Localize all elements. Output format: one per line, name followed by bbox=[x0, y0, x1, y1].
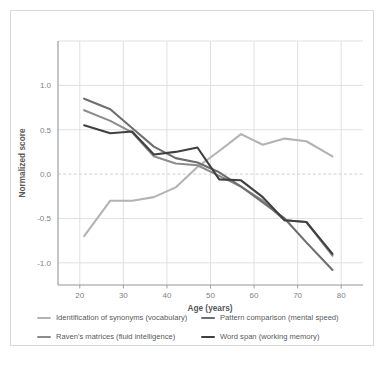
y-tick-label: -1.0 bbox=[37, 259, 51, 268]
gridlines bbox=[58, 41, 363, 285]
series-line bbox=[84, 125, 332, 254]
legend-item-ravens-matrices: Raven's matrices (fluid intelligence) bbox=[11, 332, 201, 342]
y-axis-title: Normalized score bbox=[17, 128, 27, 198]
y-tick-label: 1.0 bbox=[40, 81, 52, 90]
chart-legend: Identification of synonyms (vocabulary) … bbox=[11, 313, 375, 342]
x-tick-label: 50 bbox=[206, 291, 215, 300]
legend-label: Word span (working memory) bbox=[220, 332, 319, 342]
x-tick-label: 20 bbox=[75, 291, 84, 300]
legend-label: Identification of synonyms (vocabulary) bbox=[56, 313, 187, 323]
y-tick-label: 0.0 bbox=[40, 170, 52, 179]
y-axis-ticks: 1.00.50.0-0.5-1.0 bbox=[37, 81, 51, 267]
x-axis-ticks: 20304050607080 bbox=[75, 285, 346, 300]
x-tick-label: 70 bbox=[293, 291, 302, 300]
legend-row: Raven's matrices (fluid intelligence) Wo… bbox=[11, 332, 375, 342]
x-tick-label: 80 bbox=[337, 291, 346, 300]
legend-label: Raven's matrices (fluid intelligence) bbox=[56, 332, 175, 342]
legend-swatch-icon bbox=[201, 336, 215, 338]
x-tick-label: 40 bbox=[162, 291, 171, 300]
series-lines bbox=[84, 99, 332, 270]
legend-item-word-span: Word span (working memory) bbox=[201, 332, 375, 342]
x-tick-label: 60 bbox=[250, 291, 259, 300]
y-tick-label: -0.5 bbox=[37, 214, 51, 223]
y-tick-label: 0.5 bbox=[40, 126, 52, 135]
legend-row: Identification of synonyms (vocabulary) … bbox=[11, 313, 375, 323]
x-axis-title: Age (years) bbox=[187, 303, 232, 313]
legend-swatch-icon bbox=[37, 336, 51, 338]
legend-item-pattern-comparison: Pattern comparison (mental speed) bbox=[201, 313, 375, 323]
x-tick-label: 30 bbox=[119, 291, 128, 300]
chart-figure: 1.00.50.0-0.5-1.0 20304050607080 Age (ye… bbox=[10, 10, 374, 346]
series-line bbox=[84, 99, 332, 270]
legend-swatch-icon bbox=[37, 317, 51, 319]
legend-item-vocabulary: Identification of synonyms (vocabulary) bbox=[11, 313, 201, 323]
legend-swatch-icon bbox=[201, 317, 215, 319]
line-chart-plot: 1.00.50.0-0.5-1.0 20304050607080 Age (ye… bbox=[11, 11, 375, 347]
legend-label: Pattern comparison (mental speed) bbox=[220, 313, 339, 323]
